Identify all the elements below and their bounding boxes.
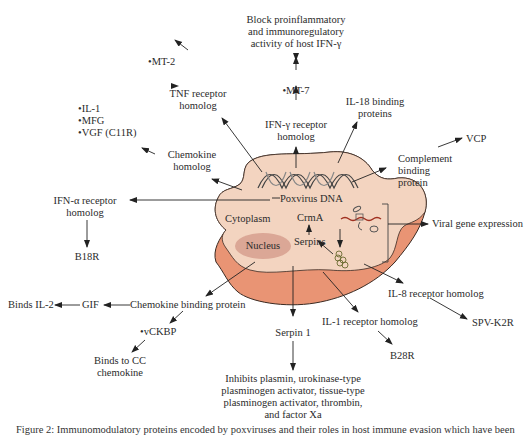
chemokine-binding-protein-label: Chemokine binding protein: [130, 299, 246, 311]
chemokine-homolog-label: Chemokine homolog: [168, 149, 216, 173]
vcp-label: VCP: [466, 133, 486, 145]
il18-binding-label: IL-18 binding proteins: [346, 96, 405, 120]
poxvirus-dna-label: Poxvirus DNA: [280, 193, 343, 205]
serpin1-label: Serpin 1: [275, 327, 310, 339]
spv-k2r-label: SPV-K2R: [472, 317, 514, 329]
ifn-gamma-receptor-label: IFN-γ receptor homolog: [265, 119, 327, 143]
vckbp-label: •vCKBP: [140, 326, 176, 338]
serpin1-inhibits-text: Inhibits plasmin, urokinase-type plasmin…: [221, 373, 364, 421]
serpins-label: Serpins: [294, 236, 326, 248]
viral-gene-expression-label: Viral gene expression: [432, 218, 523, 230]
ifn-alpha-receptor-label: IFN-α receptor homolog: [54, 195, 117, 219]
binds-cc-chemokine-label: Binds to CC chemokine: [94, 355, 146, 379]
crma-label: CrmA: [297, 212, 323, 224]
mt2-label: •MT-2: [148, 56, 175, 68]
il8-receptor-label: IL-8 receptor homolog: [388, 288, 484, 300]
b28r-label: B28R: [390, 350, 415, 362]
complement-binding-label: Complement binding protein: [398, 153, 452, 189]
chemokine-homolog-examples: •IL-1 •MFG •VGF (C11R): [78, 103, 136, 139]
cytoplasm-label: Cytoplasm: [225, 213, 271, 225]
nucleus-label: Nucleus: [246, 240, 280, 252]
b18r-label: B18R: [75, 251, 100, 263]
block-ifn-gamma-text: Block proinflammatory and immunoregulato…: [247, 14, 346, 50]
mt7-label: •MT-7: [282, 85, 309, 97]
figure-caption-partial: Figure 2: Immunomodulatory proteins enco…: [16, 424, 515, 435]
gif-label: GIF: [82, 299, 99, 311]
binds-il2-label: Binds IL-2: [8, 299, 54, 311]
il1-receptor-label: IL-1 receptor homolog: [322, 316, 418, 328]
tnf-receptor-label: TNF receptor homolog: [170, 88, 227, 112]
